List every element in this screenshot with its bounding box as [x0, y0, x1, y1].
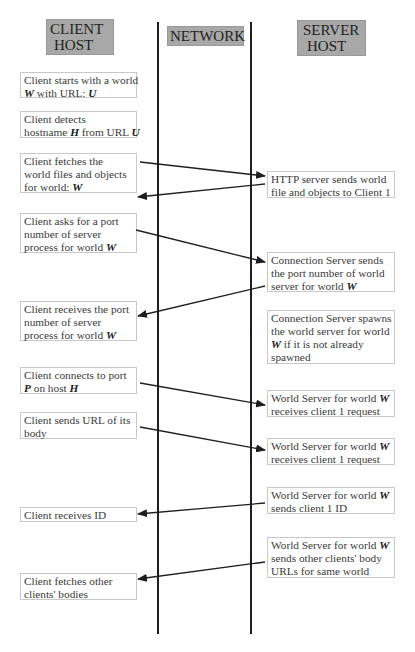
message-arrow-to-client [138, 286, 265, 316]
message-arrow-to-client [138, 184, 265, 197]
message-arrow-to-server [140, 427, 265, 450]
message-arrow-to-client [138, 503, 265, 514]
message-arrow-to-client [138, 562, 265, 579]
message-arrow-to-server [136, 230, 265, 262]
message-arrow-to-server [140, 162, 265, 176]
message-arrow-to-server [140, 383, 265, 405]
message-arrows [0, 0, 415, 652]
